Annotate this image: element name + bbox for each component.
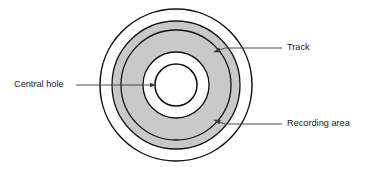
disc-diagram-svg: Track Recording area Central hole [0,0,377,171]
diagram-canvas: Track Recording area Central hole [0,0,377,171]
track-label: Track [287,42,310,52]
recording-area-label: Recording area [287,118,351,128]
central-hole-label: Central hole [14,79,64,89]
central-hole-circle [155,64,197,106]
